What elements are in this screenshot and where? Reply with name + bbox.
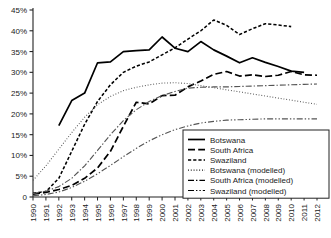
y-axis: 05%10%15%20%25%30%35%40%45% xyxy=(11,6,33,202)
x-tick-label: 1998 xyxy=(132,203,141,221)
legend-label: Botswana (modelled) xyxy=(210,166,285,175)
x-tick-label: 2007 xyxy=(249,203,258,221)
x-tick-label: 1999 xyxy=(145,203,154,221)
legend-label: South Africa xyxy=(210,146,254,155)
x-tick-label: 2000 xyxy=(158,203,167,221)
x-tick-label: 2009 xyxy=(274,203,283,221)
x-tick-label: 1991 xyxy=(42,203,51,221)
x-tick-label: 1990 xyxy=(29,203,38,221)
chart-canvas: 05%10%15%20%25%30%35%40%45% 199019911992… xyxy=(0,0,331,238)
y-tick-label: 35% xyxy=(11,48,27,57)
x-tick-label: 2003 xyxy=(197,203,206,221)
series-line xyxy=(59,37,304,126)
x-tick-label: 2010 xyxy=(287,203,296,221)
x-tick-label: 2005 xyxy=(223,203,232,221)
legend-label: Botswana xyxy=(210,136,246,145)
x-tick-label: 2004 xyxy=(210,203,219,221)
x-tick-label: 2012 xyxy=(313,203,322,221)
line-chart: 05%10%15%20%25%30%35%40%45% 199019911992… xyxy=(0,0,331,238)
x-tick-label: 1997 xyxy=(120,203,129,221)
x-tick-label: 2002 xyxy=(184,203,193,221)
y-tick-label: 40% xyxy=(11,27,27,36)
x-tick-label: 2008 xyxy=(262,203,271,221)
y-tick-label: 20% xyxy=(11,110,27,119)
x-axis: 1990199119921993199419951996199719981999… xyxy=(29,197,323,222)
legend-label: Swaziland xyxy=(210,156,246,165)
y-tick-label: 15% xyxy=(11,131,27,140)
x-tick-label: 1992 xyxy=(55,203,64,221)
y-tick-label: 25% xyxy=(11,89,27,98)
y-tick-label: 10% xyxy=(11,151,27,160)
y-tick-label: 30% xyxy=(11,68,27,77)
y-tick-label: 5% xyxy=(15,172,27,181)
chart-legend: BotswanaSouth AfricaSwazilandBotswana (m… xyxy=(183,130,329,198)
y-tick-label: 0 xyxy=(23,193,28,202)
y-tick-label: 45% xyxy=(11,6,27,15)
x-tick-label: 1995 xyxy=(94,203,103,221)
x-tick-label: 2001 xyxy=(171,203,180,221)
x-tick-label: 1993 xyxy=(68,203,77,221)
x-tick-label: 2006 xyxy=(236,203,245,221)
x-tick-label: 1994 xyxy=(81,203,90,221)
legend-label: Swaziland (modelled) xyxy=(210,187,287,196)
legend-label: South Africa (modelled) xyxy=(210,176,293,185)
x-tick-label: 1996 xyxy=(107,203,116,221)
x-tick-label: 2011 xyxy=(300,203,309,221)
